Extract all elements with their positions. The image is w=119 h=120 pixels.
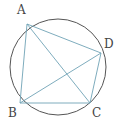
diagonal-AC bbox=[27, 24, 90, 103]
diagram-canvas: A B C D bbox=[0, 0, 119, 120]
segment-CD bbox=[90, 53, 101, 103]
label-A: A bbox=[16, 3, 26, 17]
label-B: B bbox=[8, 106, 17, 120]
label-D: D bbox=[104, 37, 114, 51]
diagonal-BD bbox=[20, 53, 101, 103]
label-C: C bbox=[92, 106, 101, 120]
